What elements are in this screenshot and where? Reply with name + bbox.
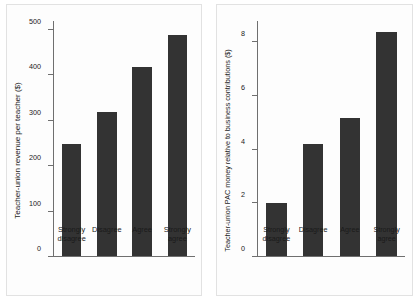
y-tick-label-left-3: 300 xyxy=(29,107,48,116)
y-tick-left-4: 400 xyxy=(48,74,53,75)
bar-slot xyxy=(89,21,124,256)
y-tick-left-1: 100 xyxy=(48,211,53,212)
x-axis-label: Stronglydisagree xyxy=(258,223,295,257)
chart-panel-left: Teacher-union revenue per teacher ($) 01… xyxy=(6,4,202,296)
y-tick-label-left-4: 400 xyxy=(29,62,48,71)
y-tick-label-right-0: 0 xyxy=(241,244,252,253)
y-tick-label-right-4: 8 xyxy=(241,29,252,38)
y-axis-title-right: Teacher-union PAC money relative to busi… xyxy=(217,5,237,295)
bar-slot xyxy=(332,21,369,256)
x-axis-labels-right: StronglydisagreeDisagreeAgreeStronglyagr… xyxy=(258,223,405,257)
y-tick-right-2: 4 xyxy=(252,149,257,150)
bar-slot xyxy=(258,21,295,256)
y-tick-label-left-2: 200 xyxy=(29,153,48,162)
plot-area-right: 02468 StronglydisagreeDisagreeAgreeStron… xyxy=(257,21,405,257)
plot-area-left: 0100200300400500 StronglydisagreeDisagre… xyxy=(53,21,195,257)
x-axis-label: Stronglyagree xyxy=(368,223,405,257)
figure-container: Teacher-union revenue per teacher ($) 01… xyxy=(0,0,419,301)
y-tick-right-0: 0 xyxy=(252,256,257,257)
x-axis-label: Agree xyxy=(332,223,369,257)
x-axis-label: Stronglydisagree xyxy=(54,223,89,257)
chart-panel-right: Teacher-union PAC money relative to busi… xyxy=(216,4,413,296)
bar-slot xyxy=(368,21,405,256)
bar-slot xyxy=(295,21,332,256)
y-axis-title-left: Teacher-union revenue per teacher ($) xyxy=(7,5,27,295)
y-tick-left-3: 300 xyxy=(48,120,53,121)
bar-group-left xyxy=(54,21,195,256)
bar-slot xyxy=(54,21,89,256)
bar-group-right xyxy=(258,21,405,256)
y-tick-label-right-1: 2 xyxy=(241,190,252,199)
y-tick-left-0: 0 xyxy=(48,256,53,257)
y-tick-label-left-5: 500 xyxy=(29,17,48,26)
y-tick-left-2: 200 xyxy=(48,165,53,166)
bar-slot xyxy=(125,21,160,256)
x-axis-label: Disagree xyxy=(295,223,332,257)
y-tick-right-1: 2 xyxy=(252,202,257,203)
x-axis-label: Disagree xyxy=(89,223,124,257)
x-axis-label: Stronglyagree xyxy=(160,223,195,257)
y-tick-label-left-0: 0 xyxy=(37,244,48,253)
bar-slot xyxy=(160,21,195,256)
y-tick-label-right-2: 4 xyxy=(241,136,252,145)
x-axis-labels-left: StronglydisagreeDisagreeAgreeStronglyagr… xyxy=(54,223,195,257)
y-tick-right-4: 8 xyxy=(252,41,257,42)
x-axis-label: Agree xyxy=(125,223,160,257)
y-tick-left-5: 500 xyxy=(48,29,53,30)
y-tick-right-3: 6 xyxy=(252,95,257,96)
y-tick-label-left-1: 100 xyxy=(29,198,48,207)
y-tick-label-right-3: 6 xyxy=(241,83,252,92)
